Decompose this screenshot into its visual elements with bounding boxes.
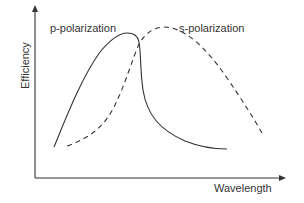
x-axis-label: Wavelength [214,182,272,194]
x-axis-arrow-icon [279,175,286,181]
p-polarization-curve [54,33,227,149]
p-polarization-label: p-polarization [50,22,116,34]
efficiency-chart [0,0,304,203]
s-polarization-label: s-polarization [179,22,244,34]
y-axis-arrow-icon [32,5,38,12]
s-polarization-curve [67,27,262,146]
y-axis-label: Efficiency [19,49,33,89]
